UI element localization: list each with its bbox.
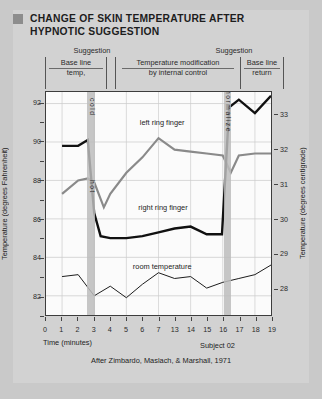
y-tick-mark-left xyxy=(40,238,44,239)
phase-header: Suggestion Suggestion Base line temp, Te… xyxy=(27,46,284,91)
y-axis-title-left: Temperature (degrees Fahrenheit) xyxy=(0,91,10,316)
x-tick-mark xyxy=(175,317,176,321)
x-tick-mark xyxy=(77,317,78,321)
y-tick-label-right: 33 xyxy=(280,110,300,119)
y-tick-mark-left xyxy=(39,141,44,142)
series-label-right-ring-finger: right ring finger xyxy=(138,203,187,212)
title-text: CHANGE OF SKIN TEMPERATURE AFTER HYPNOTI… xyxy=(30,12,270,39)
subject-label: Subject 02 xyxy=(200,341,235,350)
x-tick-mark xyxy=(207,317,208,321)
x-tick-label: 1 xyxy=(59,325,63,334)
x-tick-mark xyxy=(94,317,95,321)
series-label-room-temperature: room temperature xyxy=(133,262,192,271)
x-tick-label: 16 xyxy=(219,325,227,334)
band-label-hot: hot xyxy=(89,180,96,194)
phase-label-line2: return xyxy=(241,68,283,78)
x-tick-mark xyxy=(272,317,273,321)
plot-area: coldhotnormalizeleft ring fingerright ri… xyxy=(45,91,272,316)
phase-label-line2: by internal control xyxy=(116,68,240,78)
y-tick-mark-left xyxy=(39,103,44,104)
y-axis-title-right: Temperature (degrees centigrade) xyxy=(296,91,308,316)
y-tick-label-right: 31 xyxy=(280,180,300,189)
x-tick-label: 18 xyxy=(252,325,260,334)
y-tick-mark-left xyxy=(40,316,44,317)
phase-label-line1: Temperature modification xyxy=(116,58,240,68)
y-tick-mark-right xyxy=(274,254,278,255)
x-tick-label: 13 xyxy=(171,325,179,334)
phase-band-cold-hot xyxy=(87,92,94,315)
x-tick-label: 6 xyxy=(140,325,144,334)
y-tick-mark-left xyxy=(39,258,44,259)
y-tick-label-left: 86 xyxy=(21,215,41,224)
x-tick-mark xyxy=(256,317,257,321)
x-tick-label: 4 xyxy=(108,325,112,334)
phase-baseline-temp: Base line temp, xyxy=(45,57,107,89)
phase-label-line2: temp, xyxy=(46,68,106,78)
phase-rule xyxy=(244,68,280,69)
x-tick-label: 7 xyxy=(157,325,161,334)
suggestion-label-left: Suggestion xyxy=(57,46,127,55)
y-tick-label-left: 84 xyxy=(21,253,41,262)
x-tick-mark xyxy=(45,317,46,321)
suggestion-label-right: Suggestion xyxy=(199,46,269,55)
y-tick-mark-right xyxy=(274,184,278,185)
y-tick-mark-left xyxy=(39,297,44,298)
y-tick-mark-left xyxy=(40,161,44,162)
x-tick-mark xyxy=(223,317,224,321)
y-tick-label-left: 82 xyxy=(21,292,41,301)
x-tick-label: 3 xyxy=(92,325,96,334)
y-tick-label-right: 29 xyxy=(280,249,300,258)
phase-baseline-return: Base line return xyxy=(240,57,284,89)
phase-label-line1: Base line xyxy=(241,58,283,68)
y-tick-mark-left xyxy=(39,180,44,181)
x-tick-label: 2 xyxy=(75,325,79,334)
phase-rule xyxy=(49,68,103,69)
series-label-left-ring-finger: left ring finger xyxy=(140,118,185,127)
x-tick-mark xyxy=(159,317,160,321)
phase-temperature-modification: Temperature modification by internal con… xyxy=(115,57,241,89)
x-tick-mark xyxy=(240,317,241,321)
page-title: CHANGE OF SKIN TEMPERATURE AFTER HYPNOTI… xyxy=(13,12,285,39)
y-tick-mark-right xyxy=(274,149,278,150)
band-label-normalize: normalize xyxy=(225,91,232,133)
x-tick-mark xyxy=(142,317,143,321)
x-tick-label: 0 xyxy=(43,325,47,334)
y-tick-mark-left xyxy=(39,219,44,220)
x-tick-label: 17 xyxy=(236,325,244,334)
x-tick-mark xyxy=(61,317,62,321)
x-tick-label: 15 xyxy=(203,325,211,334)
x-tick-label: 5 xyxy=(124,325,128,334)
y-tick-label-right: 30 xyxy=(280,215,300,224)
x-tick-mark xyxy=(191,317,192,321)
x-tick-mark xyxy=(126,317,127,321)
y-tick-label-left: 88 xyxy=(21,176,41,185)
x-tick-label: 19 xyxy=(268,325,276,334)
y-tick-label-left: 92 xyxy=(21,98,41,107)
x-axis-title: Time (minutes) xyxy=(43,338,92,347)
phase-rule xyxy=(122,68,234,69)
page-background: CHANGE OF SKIN TEMPERATURE AFTER HYPNOTI… xyxy=(0,0,322,399)
y-tick-mark-right xyxy=(274,219,278,220)
y-tick-mark-left xyxy=(40,200,44,201)
x-axis-ticks: 0123456713141516171819 xyxy=(45,316,272,336)
phase-label-line1: Base line xyxy=(46,58,106,68)
y-tick-mark-left xyxy=(40,277,44,278)
title-bullet-icon xyxy=(13,14,23,24)
x-tick-mark xyxy=(110,317,111,321)
y-tick-label-right: 28 xyxy=(280,284,300,293)
x-tick-label: 14 xyxy=(187,325,195,334)
y-tick-mark-left xyxy=(40,122,44,123)
credit-label: After Zimbardo, Maslach, & Marshall, 197… xyxy=(13,356,309,365)
plot-area-wrapper: coldhotnormalizeleft ring fingerright ri… xyxy=(45,91,272,316)
y-tick-label-right: 32 xyxy=(280,145,300,154)
y-tick-mark-right xyxy=(274,289,278,290)
y-tick-label-left: 90 xyxy=(21,137,41,146)
y-tick-mark-right xyxy=(274,114,278,115)
band-label-cold: cold xyxy=(89,98,96,117)
